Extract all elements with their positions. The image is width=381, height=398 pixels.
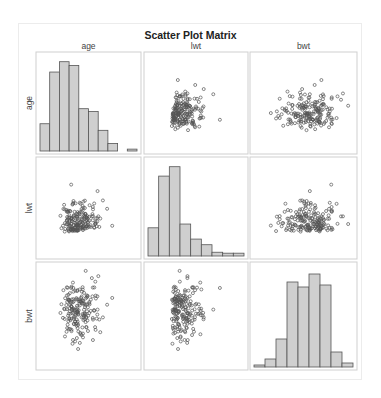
- histogram-bar: [309, 274, 320, 367]
- histogram-bar: [201, 245, 212, 256]
- histogram-bar: [223, 253, 234, 256]
- histogram-bar: [69, 65, 79, 151]
- histogram-bar: [180, 224, 191, 256]
- histogram-bar: [40, 124, 50, 151]
- histogram-bar: [79, 109, 89, 151]
- histogram-bar: [342, 363, 353, 367]
- histogram-bar: [287, 282, 298, 367]
- panel-lwt-age: [36, 157, 141, 259]
- histogram-bar: [233, 253, 244, 256]
- histogram-bar: [59, 62, 69, 151]
- histogram-bar: [331, 352, 342, 367]
- histogram-bar: [159, 176, 170, 256]
- histogram-bar: [298, 287, 309, 367]
- histogram-bar: [265, 359, 276, 367]
- panel-bwt-age: [36, 262, 141, 370]
- histogram-bar: [127, 149, 137, 151]
- histogram-bar: [276, 339, 287, 367]
- histogram-bar: [169, 167, 180, 256]
- panel-age-lwt: [144, 52, 248, 154]
- histogram-bar: [191, 239, 202, 256]
- histogram-bar: [50, 72, 60, 151]
- histogram-bar: [108, 143, 118, 151]
- histogram-bar: [89, 112, 99, 151]
- histogram-bar: [98, 130, 108, 151]
- panel-age-bwt: [250, 52, 357, 154]
- scatter-matrix-plot: [0, 0, 381, 398]
- histogram-bar: [212, 252, 223, 256]
- histogram-bar: [320, 285, 331, 367]
- histogram-bar: [254, 365, 265, 367]
- histogram-bar: [148, 228, 159, 256]
